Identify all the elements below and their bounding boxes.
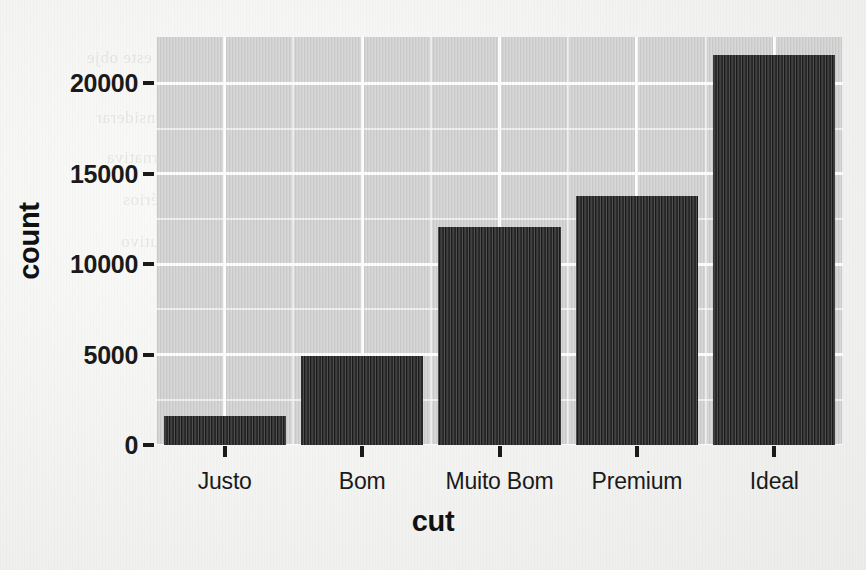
minor-gridline-vertical: [156, 37, 157, 445]
minor-gridline-vertical: [705, 37, 707, 445]
bar-muito-bom[interactable]: [438, 227, 560, 445]
x-tick-label: Justo: [198, 468, 252, 495]
y-tick-label: 10000: [70, 250, 138, 279]
bar-bom[interactable]: [301, 356, 423, 445]
bar-ideal[interactable]: [713, 55, 835, 445]
y-tick-label: 5000: [84, 340, 138, 369]
plot-panel: [156, 37, 843, 445]
x-tick-label: Bom: [339, 468, 386, 495]
x-tick-label: Ideal: [750, 468, 799, 495]
y-tick-label: 20000: [70, 69, 138, 98]
x-tick-mark: [223, 446, 227, 457]
x-tick-mark: [360, 446, 364, 457]
y-tick-label: 0: [124, 431, 138, 460]
x-axis-title: cut: [0, 505, 866, 538]
minor-gridline-vertical: [842, 37, 843, 445]
x-tick-mark: [772, 446, 776, 457]
y-tick-mark: [143, 443, 154, 447]
bar-justo[interactable]: [164, 416, 286, 445]
minor-gridline-vertical: [292, 37, 294, 445]
y-tick-mark: [143, 262, 154, 266]
x-tick-label: Muito Bom: [445, 468, 553, 495]
y-tick-mark: [143, 81, 154, 85]
minor-gridline-vertical: [567, 37, 569, 445]
x-tick-mark: [498, 446, 502, 457]
chart-page: ativamente, este obje s devemos consider…: [0, 0, 866, 570]
y-tick-mark: [143, 172, 154, 176]
y-axis-title: count: [13, 202, 46, 279]
y-axis-tick-labels: 05000100001500020000: [0, 0, 138, 570]
major-gridline-vertical: [223, 37, 226, 445]
x-tick-label: Premium: [592, 468, 683, 495]
minor-gridline-vertical: [430, 37, 432, 445]
x-tick-mark: [635, 446, 639, 457]
y-tick-mark: [143, 353, 154, 357]
y-tick-label: 15000: [70, 159, 138, 188]
bar-premium[interactable]: [576, 196, 698, 445]
bar-chart: 05000100001500020000 count JustoBomMuito…: [0, 0, 866, 570]
